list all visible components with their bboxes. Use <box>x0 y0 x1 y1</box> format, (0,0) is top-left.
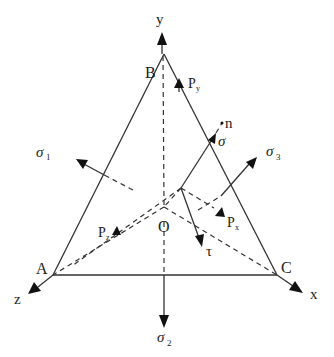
x-axis-label: x <box>310 286 318 302</box>
y-axis-label: y <box>156 11 164 27</box>
sigma1-label: σ <box>36 144 44 160</box>
point-to-O-dash <box>164 188 181 207</box>
sigma1-arrowhead-icon <box>76 159 88 169</box>
sigma3-line <box>221 163 250 196</box>
tau-line <box>181 188 199 238</box>
sigma3-subscript: 3 <box>276 152 281 162</box>
vertex-B-label: B <box>145 64 156 81</box>
px-subscript: x <box>235 223 239 232</box>
x-axis <box>277 275 293 286</box>
normal-tip-dot <box>221 122 224 125</box>
sigma3-hidden-line <box>198 196 221 210</box>
tau-label: τ <box>206 243 212 259</box>
normal-n-label: n <box>225 115 233 131</box>
pz-subscript: z <box>106 233 110 242</box>
vertex-A-label: A <box>36 260 48 277</box>
px-arrowhead-icon <box>215 207 225 217</box>
px-label: P <box>227 215 235 230</box>
pz-arrowhead-icon <box>112 226 121 235</box>
z-axis-label: z <box>14 291 21 307</box>
normal-n-line <box>216 123 222 133</box>
vertex-C-label: C <box>281 259 292 276</box>
stress-tetrahedron-diagram: y B A C O z x n σ τ σ 1 σ 3 σ 2 P x P y … <box>0 0 334 357</box>
sigma3-label: σ <box>266 143 274 159</box>
z-axis-arrowhead-icon <box>28 282 41 294</box>
tau-arrowhead-icon <box>195 234 204 247</box>
sigma1-line <box>82 163 108 177</box>
sigma1-hidden-line <box>108 177 133 190</box>
py-arrowhead-icon <box>174 78 184 88</box>
vertex-O-label: O <box>158 218 170 235</box>
normal-sigma-line <box>181 138 213 188</box>
sigma1-subscript: 1 <box>46 152 51 162</box>
sigma3-arrowhead-icon <box>246 157 257 169</box>
y-axis <box>157 32 167 54</box>
x-axis-arrowhead-icon <box>289 281 303 293</box>
py-subscript: y <box>196 84 200 93</box>
px-dash-line <box>181 188 214 208</box>
y-axis-arrowhead-icon <box>157 32 167 45</box>
sigma2-subscript: 2 <box>167 338 172 348</box>
sigma2-arrowhead-icon <box>159 315 169 328</box>
py-label: P <box>188 76 196 91</box>
sigma-normal-label: σ <box>218 133 226 149</box>
pz-label: P <box>98 225 106 240</box>
sigma2-label: σ <box>157 329 165 345</box>
oy-hidden-edge <box>163 56 164 205</box>
